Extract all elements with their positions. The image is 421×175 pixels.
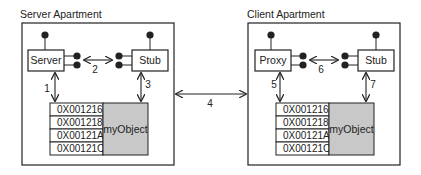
server-stub-top-interface-lollipop	[146, 31, 153, 38]
client-stub-top-interface-lollipop	[372, 31, 379, 38]
proxy-memory-arrow-label: 5	[271, 79, 277, 90]
proxy-interface-lollipop-1	[299, 52, 306, 59]
address-text: 0X001216	[283, 104, 329, 115]
proxy-stub-link-label: 6	[318, 64, 324, 75]
address-text: 0X001216	[57, 104, 103, 115]
client-stub-interface-lollipop-1	[341, 52, 348, 59]
address-text: 0X00121A	[57, 130, 104, 141]
server-node: Server	[28, 31, 81, 71]
server-apartment-title: Server Apartment	[20, 8, 102, 20]
address-text: 0X00121C	[283, 143, 330, 154]
object-label: myObject	[329, 123, 373, 135]
server-stub-interface-lollipop-2	[115, 61, 122, 68]
address-text: 0X00121A	[283, 130, 330, 141]
client-memory-table: 0X001216 0X001218 0X00121A 0X00121C myOb…	[276, 103, 374, 155]
proxy-node: Proxy	[255, 31, 307, 71]
stub-memory-arrow-label: 3	[145, 79, 151, 90]
server-interface-lollipop-1	[73, 52, 80, 59]
server-memory-arrow-label: 1	[44, 83, 50, 94]
server-stub-link-label: 2	[92, 64, 98, 75]
server-apartment: Server Apartment Server Stub 2	[20, 8, 174, 165]
client-stub-memory-arrow-label: 7	[370, 79, 376, 90]
client-stub-node: Stub	[341, 31, 394, 71]
client-apartment-title: Client Apartment	[247, 8, 325, 20]
client-stub-interface-lollipop-2	[341, 61, 348, 68]
cross-apartment-arrow-label: 4	[207, 98, 213, 109]
client-stub-box-label: Stub	[365, 54, 387, 66]
server-memory-table: 0X001216 0X001218 0X00121A 0X00121C myOb…	[50, 103, 148, 155]
server-stub-box-label: Stub	[139, 54, 161, 66]
proxy-box-label: Proxy	[260, 54, 288, 66]
address-text: 0X001218	[283, 117, 329, 128]
server-stub-node: Stub	[115, 31, 168, 71]
diagram-canvas: Server Apartment Server Stub 2	[0, 0, 421, 175]
server-box-label: Server	[31, 54, 62, 66]
server-top-interface-lollipop	[41, 31, 48, 38]
server-stub-interface-lollipop-1	[115, 52, 122, 59]
client-apartment: Client Apartment Proxy Stub 6	[247, 8, 400, 165]
proxy-interface-lollipop-2	[299, 61, 306, 68]
address-text: 0X001218	[57, 117, 103, 128]
server-interface-lollipop-2	[73, 61, 80, 68]
object-label: myObject	[103, 123, 147, 135]
proxy-top-interface-lollipop	[267, 31, 274, 38]
address-text: 0X00121C	[57, 143, 104, 154]
